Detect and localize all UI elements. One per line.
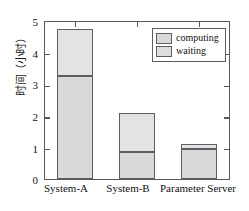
plot-area: computing waiting — [44, 21, 230, 180]
x-tick-label-system-b: System-B — [98, 182, 158, 194]
bar-segment-computing-parameter-server — [181, 144, 217, 148]
bar-system-a — [57, 29, 93, 179]
x-tick-mark-top-1 — [75, 22, 76, 27]
bar-parameter-server — [181, 144, 217, 179]
y-tick-label-4: 4 — [24, 48, 38, 60]
y-tick-mark-4 — [45, 54, 50, 55]
y-tick-mark-3 — [45, 86, 50, 87]
bar-segment-computing-system-b — [119, 113, 155, 153]
legend-item-computing: computing — [156, 32, 222, 44]
bar-system-b — [119, 113, 155, 179]
bar-segment-waiting-system-a — [57, 76, 93, 179]
y-tick-label-1: 1 — [24, 143, 38, 155]
y-tick-mark-right-1 — [224, 149, 229, 150]
legend-swatch-waiting — [156, 46, 172, 57]
y-tick-mark-right-2 — [224, 117, 229, 118]
y-tick-label-2: 2 — [24, 111, 38, 123]
y-tick-mark-right-3 — [224, 86, 229, 87]
y-tick-mark-1 — [45, 149, 50, 150]
y-tick-label-3: 3 — [24, 79, 38, 91]
legend-label-waiting: waiting — [176, 46, 206, 56]
x-tick-label-system-a: System-A — [36, 182, 96, 194]
x-tick-label-parameter-server: Parameter Server — [152, 182, 244, 194]
chart-figure: 时间（小时） 5 4 3 2 1 0 — [0, 0, 249, 211]
legend: computing waiting — [152, 28, 226, 62]
bar-segment-waiting-system-b — [119, 152, 155, 179]
y-tick-mark-2 — [45, 117, 50, 118]
legend-item-waiting: waiting — [156, 45, 222, 57]
bar-segment-computing-system-a — [57, 29, 93, 76]
x-tick-mark-top-2 — [137, 22, 138, 27]
x-tick-mark-top-3 — [199, 22, 200, 27]
bar-segment-waiting-parameter-server — [181, 149, 217, 179]
legend-swatch-computing — [156, 33, 172, 44]
y-tick-label-5: 5 — [24, 16, 38, 28]
legend-label-computing: computing — [176, 33, 219, 43]
